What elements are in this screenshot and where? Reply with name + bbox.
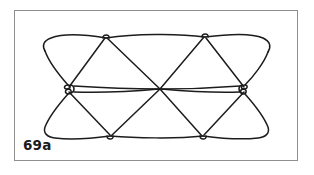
figure-frame: [14, 10, 298, 161]
figure-label: 69a: [23, 139, 52, 153]
figure-page: 69a: [0, 0, 314, 175]
